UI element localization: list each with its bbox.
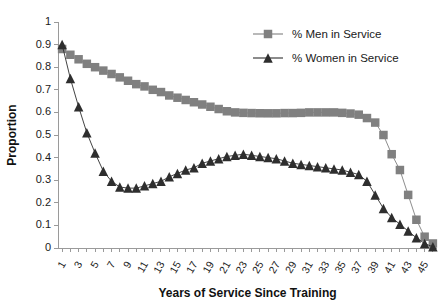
data-point-marker <box>297 109 306 118</box>
x-tick-label: 31 <box>299 259 315 275</box>
x-tick-label: 15 <box>167 259 183 275</box>
data-point-marker <box>362 177 372 187</box>
legend-item[interactable]: % Women in Service <box>253 52 399 64</box>
data-point-marker <box>305 108 314 117</box>
x-tick-label: 21 <box>216 259 232 275</box>
data-point-marker <box>74 55 83 64</box>
x-tick-label: 27 <box>266 259 282 275</box>
data-point-marker <box>379 131 388 140</box>
x-tick-label: 45 <box>414 259 430 275</box>
data-point-marker <box>321 163 331 173</box>
data-point-marker <box>338 109 347 118</box>
data-point-marker <box>289 109 298 118</box>
data-point-marker <box>66 74 76 84</box>
data-point-marker <box>115 182 125 192</box>
data-point-marker <box>99 166 109 176</box>
y-tick-label: 0 <box>45 241 51 253</box>
data-point-marker <box>181 165 191 175</box>
data-point-marker <box>230 151 240 161</box>
data-point-marker <box>354 110 363 119</box>
data-point-marker <box>148 179 158 189</box>
data-point-marker <box>214 105 223 114</box>
x-tick-label: 23 <box>233 259 249 275</box>
data-point-marker <box>387 150 396 159</box>
y-tick-label: 0.1 <box>36 218 51 230</box>
legend: % Men in Service% Women in Service <box>253 28 399 64</box>
data-point-marker <box>255 152 265 162</box>
data-point-marker <box>412 233 422 243</box>
data-point-marker <box>82 128 92 138</box>
data-point-marker <box>288 159 298 169</box>
data-point-marker <box>57 40 67 50</box>
data-point-marker <box>99 66 108 75</box>
data-point-marker <box>313 108 322 117</box>
y-tick-label: 0.2 <box>36 196 51 208</box>
data-point-marker <box>313 162 323 172</box>
legend-label: % Women in Service <box>292 52 399 64</box>
data-point-marker <box>239 109 248 118</box>
data-point-marker <box>107 177 117 187</box>
data-point-marker <box>256 109 265 118</box>
y-tick-label: 0.4 <box>36 151 51 163</box>
data-point-marker <box>157 88 166 97</box>
data-point-marker <box>263 153 273 163</box>
data-point-marker <box>83 60 92 68</box>
data-point-marker <box>363 114 372 123</box>
data-point-marker <box>231 108 240 117</box>
data-point-marker <box>280 156 290 166</box>
data-point-marker <box>74 102 84 112</box>
data-point-marker <box>66 51 75 60</box>
x-tick-label: 41 <box>381 259 397 275</box>
x-tick-label: 17 <box>183 259 199 275</box>
y-tick-label: 0.3 <box>36 173 51 185</box>
data-point-marker <box>206 103 215 112</box>
data-point-marker <box>223 107 232 116</box>
data-point-marker <box>396 166 405 175</box>
x-tick-label: 11 <box>134 259 150 275</box>
data-point-marker <box>165 91 174 100</box>
legend-marker-square <box>264 30 273 39</box>
legend-item[interactable]: % Men in Service <box>253 28 381 40</box>
y-tick-label: 0.6 <box>36 105 51 117</box>
data-point-marker <box>264 109 273 118</box>
data-point-marker <box>116 73 125 82</box>
data-point-marker <box>370 190 380 200</box>
y-tick-label: 0.7 <box>36 83 51 95</box>
data-point-marker <box>124 77 133 86</box>
data-point-marker <box>354 170 364 180</box>
x-tick-label: 37 <box>348 259 364 275</box>
x-tick-label: 5 <box>87 259 100 270</box>
x-tick-label: 19 <box>200 259 216 275</box>
data-point-marker <box>305 161 315 171</box>
x-tick-label: 3 <box>71 259 84 270</box>
data-point-marker <box>140 82 149 91</box>
data-point-marker <box>280 109 289 118</box>
y-tick-label: 1 <box>45 15 51 27</box>
data-point-marker <box>338 165 348 175</box>
data-point-marker <box>222 152 232 162</box>
chart-container: 00.10.20.30.40.50.60.70.80.9113579111315… <box>0 0 444 308</box>
data-point-marker <box>173 93 182 102</box>
line-chart: 00.10.20.30.40.50.60.70.80.9113579111315… <box>0 0 444 308</box>
x-tick-label: 29 <box>282 259 298 275</box>
data-point-marker <box>140 181 150 191</box>
data-point-marker <box>322 108 331 117</box>
data-point-marker <box>181 96 190 105</box>
data-point-marker <box>90 148 100 158</box>
data-point-marker <box>272 154 282 164</box>
data-point-marker <box>206 156 216 166</box>
x-tick-label: 9 <box>120 259 133 270</box>
data-point-marker <box>190 98 199 107</box>
data-point-marker <box>395 220 405 230</box>
data-point-marker <box>346 168 356 178</box>
data-point-marker <box>371 118 380 127</box>
x-tick-label: 35 <box>332 259 348 275</box>
data-point-marker <box>247 151 257 161</box>
data-point-marker <box>149 86 158 95</box>
series-men <box>58 45 437 248</box>
data-point-marker <box>239 149 249 159</box>
data-point-marker <box>296 160 306 170</box>
data-point-marker <box>173 169 183 179</box>
x-axis-title: Years of Service Since Training <box>158 286 336 300</box>
x-tick-label: 25 <box>249 259 265 275</box>
